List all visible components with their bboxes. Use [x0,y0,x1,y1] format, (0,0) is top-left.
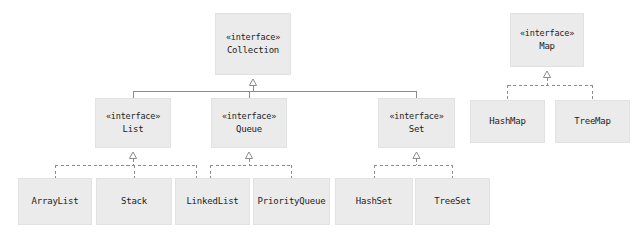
class-box-priorityqueue[interactable]: PriorityQueue [253,178,330,225]
stereotype-label: «interface» [520,28,574,39]
class-box-set[interactable]: «interface» Set [378,98,455,148]
class-box-treemap[interactable]: TreeMap [555,100,630,143]
class-box-linkedlist[interactable]: LinkedList [175,178,250,225]
class-name-label: Queue [236,123,262,135]
class-name-label: Stack [121,195,147,207]
class-name-label: HashSet [356,195,393,207]
class-box-arraylist[interactable]: ArrayList [18,178,92,225]
class-name-label: HashMap [489,115,526,127]
class-box-stack[interactable]: Stack [96,178,172,225]
class-name-label: PriorityQueue [258,195,326,207]
stereotype-label: «interface» [106,111,160,122]
uml-class-diagram: «interface» Collection «interface» Map «… [0,0,632,238]
class-name-label: TreeMap [574,115,611,127]
class-box-treeset[interactable]: TreeSet [415,178,490,225]
stereotype-label: «interface» [222,111,276,122]
class-name-label: Set [409,123,425,135]
class-box-hashset[interactable]: HashSet [335,178,413,225]
stereotype-label: «interface» [226,32,280,43]
class-box-queue[interactable]: «interface» Queue [211,98,287,148]
class-name-label: Map [539,40,555,52]
class-name-label: Collection [227,44,279,56]
class-name-label: TreeSet [434,195,471,207]
stereotype-label: «interface» [389,111,443,122]
class-box-hashmap[interactable]: HashMap [470,100,545,143]
class-name-label: ArrayList [32,195,79,207]
class-box-collection[interactable]: «interface» Collection [215,13,291,75]
class-box-list[interactable]: «interface» List [95,98,171,148]
class-box-map[interactable]: «interface» Map [510,13,584,67]
class-name-label: LinkedList [186,195,238,207]
class-name-label: List [123,123,144,135]
